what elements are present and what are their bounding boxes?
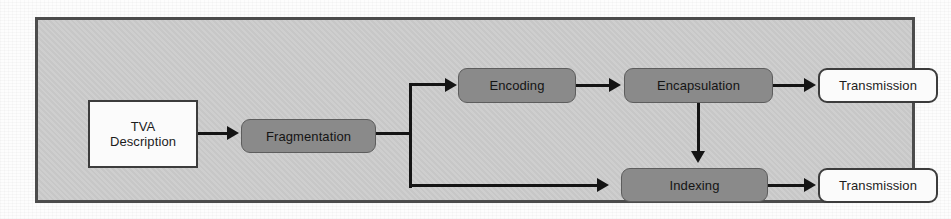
node-encapsulation-label: Encapsulation xyxy=(657,78,740,93)
arrowhead-down-icon xyxy=(691,151,705,163)
node-fragmentation-label: Fragmentation xyxy=(266,129,351,144)
arrowhead-right-icon xyxy=(597,178,609,192)
edge-encapsulation-to-indexing xyxy=(697,103,700,153)
arrowhead-right-icon xyxy=(804,178,816,192)
node-encoding: Encoding xyxy=(458,68,576,103)
arrowhead-right-icon xyxy=(804,78,816,92)
node-tva-description-line1: TVA xyxy=(110,119,176,134)
arrowhead-right-icon xyxy=(445,78,457,92)
edge-branch-vertical xyxy=(409,83,412,188)
edge-branch-to-indexing xyxy=(409,184,599,187)
edge-encapsulation-to-transmission-top xyxy=(773,84,806,87)
node-indexing-label: Indexing xyxy=(670,178,720,193)
arrowhead-right-icon xyxy=(609,78,621,92)
node-transmission-top-label: Transmission xyxy=(839,78,917,93)
node-fragmentation: Fragmentation xyxy=(241,119,376,153)
node-transmission-bottom-label: Transmission xyxy=(839,178,917,193)
edge-branch-to-encoding xyxy=(409,83,447,86)
node-transmission-top: Transmission xyxy=(818,68,938,103)
node-tva-description-line2: Description xyxy=(110,134,176,149)
arrowhead-right-icon xyxy=(227,126,239,140)
node-transmission-bottom: Transmission xyxy=(818,168,938,203)
edge-fragmentation-to-branch xyxy=(376,132,412,135)
diagram-page: TVA Description Fragmentation Encoding E… xyxy=(0,0,951,219)
node-tva-description: TVA Description xyxy=(88,100,198,168)
node-indexing: Indexing xyxy=(621,168,768,202)
diagram-container: TVA Description Fragmentation Encoding E… xyxy=(35,17,915,203)
node-encapsulation: Encapsulation xyxy=(624,68,773,103)
edge-encoding-to-encapsulation xyxy=(576,84,611,87)
node-encoding-label: Encoding xyxy=(489,78,544,93)
edge-tva-description-to-fragmentation xyxy=(198,132,228,135)
edge-indexing-to-transmission-bottom xyxy=(768,184,806,187)
